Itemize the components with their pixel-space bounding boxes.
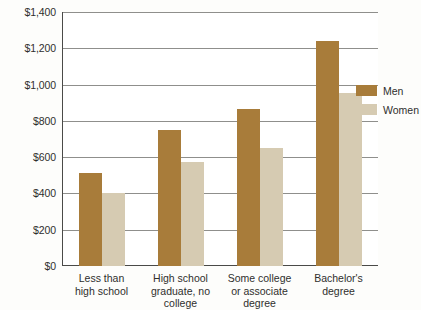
y-axis-tick-label: $1,400 xyxy=(0,6,56,18)
bar-men xyxy=(316,41,339,266)
bar-group xyxy=(158,12,204,266)
bar-chart: $0$200$400$600$800$1,000$1,200$1,400 Les… xyxy=(0,0,421,310)
bar-group xyxy=(237,12,283,266)
category-label-line: degree xyxy=(291,285,387,298)
bar-women xyxy=(260,148,283,266)
bar-men xyxy=(79,173,102,266)
bar-groups xyxy=(62,12,378,266)
y-axis-tick-label: $0 xyxy=(0,260,56,272)
bar-women xyxy=(102,193,125,266)
bar-men xyxy=(158,130,181,266)
chart-legend: MenWomen xyxy=(356,82,419,120)
bar-group xyxy=(316,12,362,266)
x-axis-category-label: Bachelor'sdegree xyxy=(291,272,387,297)
y-axis-tick-label: $1,200 xyxy=(0,42,56,54)
y-axis-tick-label: $800 xyxy=(0,115,56,127)
bar-men xyxy=(237,109,260,266)
legend-item-men: Men xyxy=(356,82,419,99)
category-label-line: Bachelor's xyxy=(291,272,387,285)
y-axis-tick-label: $1,000 xyxy=(0,79,56,91)
bar-group xyxy=(79,12,125,266)
legend-item-women: Women xyxy=(356,101,419,118)
category-label-line: degree xyxy=(212,297,308,310)
legend-label: Women xyxy=(383,104,419,116)
legend-swatch-icon xyxy=(356,85,377,96)
y-axis-tick-label: $200 xyxy=(0,224,56,236)
y-axis-tick-label: $400 xyxy=(0,187,56,199)
y-axis-tick-label: $600 xyxy=(0,151,56,163)
legend-label: Men xyxy=(383,85,403,97)
bar-women xyxy=(181,162,204,266)
legend-swatch-icon xyxy=(356,104,377,115)
